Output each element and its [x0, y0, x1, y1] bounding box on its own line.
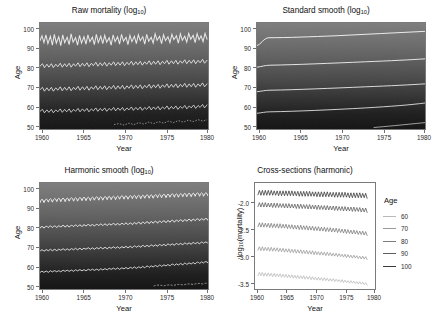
cross-sections-lines — [255, 183, 375, 289]
ytick-label: 100 — [231, 26, 251, 33]
xtick-label: 1980 — [361, 294, 387, 301]
xtick-mark — [167, 130, 168, 133]
panel-standard-smooth: Standard smooth (log10) Age 100 90 80 70… — [217, 6, 435, 162]
ytick-label: 90 — [231, 45, 251, 52]
panel-cross-sections-title: Cross-sections (harmonic) — [227, 166, 383, 175]
legend-swatch-line — [383, 253, 396, 254]
legend-item-label: 60 — [401, 213, 408, 220]
xtick-mark — [42, 130, 43, 133]
panel-standard-smooth-title: Standard smooth (log10) — [217, 6, 435, 15]
heatmap-surface-raw — [40, 23, 208, 129]
ytick-label: 60 — [231, 104, 251, 111]
heatmap-surface-standard — [257, 23, 425, 129]
legend-item-100[interactable]: 100 — [383, 260, 433, 273]
legend-swatch-line — [383, 266, 396, 267]
panel-harmonic-smooth-title: Harmonic smooth (log10) — [0, 166, 218, 175]
ytick-label: 70 — [14, 84, 34, 91]
xtick-mark — [316, 290, 317, 293]
panel-standard-smooth-xlabel: Year — [256, 144, 426, 153]
xtick-label: 1960 — [244, 294, 270, 301]
ytick-label: 70 — [231, 84, 251, 91]
legend-item-60[interactable]: 60 — [383, 210, 433, 223]
legend-title: Age — [384, 196, 433, 205]
ytick-label: -2.0 — [225, 200, 249, 207]
xtick-label: 1965 — [274, 294, 300, 301]
xtick-label: 1975 — [333, 294, 359, 301]
legend-item-label: 80 — [401, 238, 408, 245]
legend-swatch-line — [383, 216, 396, 217]
xtick-label: 1970 — [329, 134, 355, 141]
ytick-label: -3.5 — [225, 281, 249, 288]
xtick-label: 1975 — [154, 294, 180, 301]
ytick-label: 90 — [14, 205, 34, 212]
xtick-mark — [207, 130, 208, 133]
ytick-label: 80 — [231, 65, 251, 72]
legend-swatch-line — [383, 228, 396, 229]
xtick-label: 1965 — [288, 134, 314, 141]
legend-age: Age 60 70 80 90 100 — [383, 196, 433, 273]
xtick-label: 1970 — [112, 134, 138, 141]
xtick-label: 1960 — [29, 134, 55, 141]
panel-harmonic-smooth-xlabel: Year — [39, 304, 209, 313]
xtick-mark — [125, 290, 126, 293]
xtick-label: 1965 — [71, 134, 97, 141]
xtick-label: 1970 — [112, 294, 138, 301]
xtick-label: 1960 — [29, 294, 55, 301]
ytick-label: 100 — [14, 26, 34, 33]
xtick-mark — [384, 130, 385, 133]
xtick-mark — [42, 290, 43, 293]
xtick-label: 1975 — [371, 134, 397, 141]
xtick-mark — [167, 290, 168, 293]
legend-item-label: 70 — [401, 225, 408, 232]
ytick-label: 90 — [14, 45, 34, 52]
ytick-label: 50 — [14, 124, 34, 131]
ytick-label: 80 — [14, 65, 34, 72]
xtick-mark — [300, 130, 301, 133]
ytick-label: 60 — [14, 104, 34, 111]
legend-item-90[interactable]: 90 — [383, 248, 433, 261]
legend-swatch-line — [383, 241, 396, 242]
xtick-mark — [424, 130, 425, 133]
panel-cross-sections-xlabel: Year — [254, 304, 376, 313]
legend-item-70[interactable]: 70 — [383, 223, 433, 236]
ytick-label: -3.0 — [225, 254, 249, 261]
ytick-label: 80 — [14, 225, 34, 232]
ytick-label: 60 — [14, 264, 34, 271]
xtick-mark — [83, 130, 84, 133]
panel-raw-mortality: Raw mortality (log10) Age 100 90 80 70 6… — [0, 6, 218, 162]
xtick-label: 1980 — [411, 134, 435, 141]
xtick-label: 1970 — [304, 294, 330, 301]
legend-item-label: 90 — [401, 250, 408, 257]
legend-item-80[interactable]: 80 — [383, 235, 433, 248]
xtick-label: 1965 — [71, 294, 97, 301]
xtick-label: 1975 — [154, 134, 180, 141]
panel-cross-sections: Cross-sections (harmonic) log10(mortalit… — [217, 166, 383, 323]
ytick-label: -2.5 — [225, 227, 249, 234]
panel-cross-sections-plot-area — [254, 182, 376, 290]
xtick-mark — [346, 290, 347, 293]
xtick-mark — [342, 130, 343, 133]
ytick-label: 50 — [231, 124, 251, 131]
xtick-mark — [207, 290, 208, 293]
panel-raw-mortality-xlabel: Year — [39, 144, 209, 153]
heatmap-surface-harmonic — [40, 183, 208, 289]
xtick-mark — [286, 290, 287, 293]
xtick-mark — [374, 290, 375, 293]
panel-harmonic-smooth: Harmonic smooth (log10) Age 100 90 80 70… — [0, 166, 218, 323]
xtick-label: 1960 — [246, 134, 272, 141]
ytick-label: 50 — [14, 284, 34, 291]
ytick-label: 100 — [14, 186, 34, 193]
xtick-mark — [259, 130, 260, 133]
panel-standard-smooth-plot-area — [256, 22, 426, 130]
panel-raw-mortality-title: Raw mortality (log10) — [0, 6, 218, 15]
legend-item-label: 100 — [401, 263, 412, 270]
xtick-mark — [257, 290, 258, 293]
xtick-mark — [83, 290, 84, 293]
ytick-label: 70 — [14, 244, 34, 251]
figure-canvas: Raw mortality (log10) Age 100 90 80 70 6… — [0, 0, 435, 323]
xtick-mark — [125, 130, 126, 133]
panel-raw-mortality-plot-area — [39, 22, 209, 130]
panel-harmonic-smooth-plot-area — [39, 182, 209, 290]
